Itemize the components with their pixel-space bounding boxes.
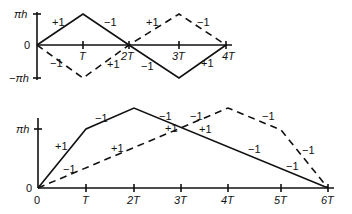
top-x-tick-2T: 2T xyxy=(120,50,135,62)
label: −1 xyxy=(104,16,117,28)
top-y-label-zero: 0 xyxy=(24,39,30,51)
label: −1 xyxy=(50,57,63,69)
phase-diagram: πh 0 −πh T 2T 3T 4T +1 −1 −1 +1 −1 +1 +1… xyxy=(0,0,352,214)
label: −1 xyxy=(248,143,261,155)
label: +1 xyxy=(201,57,214,69)
label: −1 xyxy=(190,110,203,122)
bottom-x-tick-4T: 4T xyxy=(221,194,235,206)
bottom-x-tick-0: 0 xyxy=(34,194,40,206)
bottom-plot: πh 0 0 T 2T 3T 4T 5T 6T +1 −1 −1 +1 −1 −… xyxy=(16,108,335,206)
top-x-tick-3T: 3T xyxy=(172,50,186,62)
label: −1 xyxy=(95,112,108,124)
bottom-x-tick-2T: 2T xyxy=(126,194,141,206)
top-x-tick-4T: 4T xyxy=(222,50,236,62)
label: −1 xyxy=(286,160,299,172)
label: +1 xyxy=(111,142,124,154)
top-y-label-pih: πh xyxy=(14,8,28,20)
bottom-solid-curve xyxy=(38,108,328,188)
bottom-y-label-zero: 0 xyxy=(26,182,32,194)
top-plot: πh 0 −πh T 2T 3T 4T +1 −1 −1 +1 −1 +1 +1… xyxy=(9,8,236,84)
label: +1 xyxy=(107,58,120,70)
top-x-tick-T: T xyxy=(79,50,87,62)
label: −1 xyxy=(159,110,172,122)
label: −1 xyxy=(197,16,210,28)
label: +1 xyxy=(146,16,159,28)
label: −1 xyxy=(302,144,315,156)
bottom-x-tick-T: T xyxy=(82,194,90,206)
label: −1 xyxy=(262,110,275,122)
label: −1 xyxy=(63,163,76,175)
bottom-x-tick-3T: 3T xyxy=(174,194,188,206)
label: −1 xyxy=(141,60,154,72)
bottom-y-label-pih: πh xyxy=(16,123,30,135)
label: +1 xyxy=(199,123,212,135)
bottom-x-tick-5T: 5T xyxy=(274,194,288,206)
top-y-label-neg-pih: −πh xyxy=(9,72,29,84)
label: +1 xyxy=(52,16,65,28)
label: +1 xyxy=(55,140,68,152)
bottom-x-tick-6T: 6T xyxy=(321,194,335,206)
bottom-dashed-curve xyxy=(38,108,328,188)
label: +1 xyxy=(165,122,178,134)
